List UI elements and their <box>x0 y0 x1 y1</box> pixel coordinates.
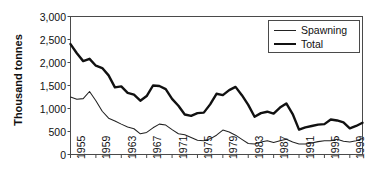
legend-line-total-icon <box>274 43 296 45</box>
legend-item-total: Total <box>274 37 323 51</box>
chart-container: Thousand tonnes 05001,0001,5002,0002,500… <box>0 0 377 196</box>
series-line-spawning <box>71 91 363 143</box>
legend-item-spawning: Spawning <box>274 23 347 37</box>
series-line-total <box>71 44 363 130</box>
legend-label-spawning: Spawning <box>301 25 347 36</box>
legend-label-total: Total <box>301 39 323 50</box>
chart-legend: Spawning Total <box>268 20 360 53</box>
legend-line-spawning-icon <box>274 30 296 31</box>
